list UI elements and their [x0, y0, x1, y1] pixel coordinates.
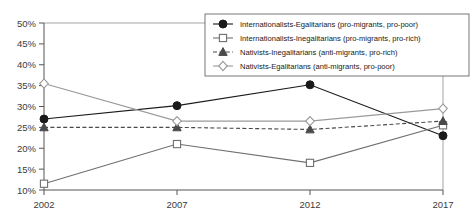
data-point: [173, 102, 181, 110]
x-axis-tick-label: 2007: [166, 199, 187, 210]
x-axis-tick-group: 2002200720122017: [33, 190, 453, 210]
data-point: [40, 115, 48, 123]
y-axis-tick-group: 50%45%40%35%30%25%20%15%10%: [17, 18, 44, 196]
legend-label: Internationalists-Inegalitarians (pro-mi…: [240, 34, 421, 43]
data-point: [306, 117, 315, 126]
chart-series: [40, 79, 448, 126]
data-point: [40, 79, 49, 88]
series-line: [44, 84, 443, 122]
y-axis-tick-label: 20%: [17, 143, 37, 154]
y-axis-tick-label: 25%: [17, 122, 37, 133]
y-axis-tick-label: 15%: [17, 164, 37, 175]
y-axis-tick-label: 45%: [17, 38, 37, 49]
y-axis-tick-label: 10%: [17, 185, 37, 196]
x-axis-tick-label: 2012: [299, 199, 320, 210]
data-point: [306, 81, 314, 89]
series-group: [40, 79, 448, 187]
legend-item[interactable]: Nativists-Inegalitarians (anti-migrants,…: [213, 48, 398, 57]
legend-item[interactable]: Internationalists-Egalitarians (pro-migr…: [213, 20, 419, 29]
line-chart: 50%45%40%35%30%25%20%15%10% 200220072012…: [0, 0, 475, 223]
data-point: [40, 180, 47, 187]
legend-item[interactable]: Nativists-Egalitarians (anti-migrants, p…: [213, 61, 395, 71]
legend-item[interactable]: Internationalists-Inegalitarians (pro-mi…: [213, 34, 421, 43]
legend-marker: [219, 20, 227, 28]
legend-label: Nativists-Egalitarians (anti-migrants, p…: [240, 62, 395, 71]
y-axis-tick-label: 40%: [17, 59, 37, 70]
chart-series: [40, 117, 447, 133]
legend-marker: [219, 34, 226, 41]
chart-canvas: 50%45%40%35%30%25%20%15%10% 200220072012…: [0, 0, 475, 223]
series-line: [44, 125, 443, 183]
chart-series: [40, 122, 446, 188]
data-point: [439, 104, 448, 113]
data-point: [173, 117, 182, 126]
y-axis-tick-label: 35%: [17, 80, 37, 91]
x-axis-tick-label: 2017: [432, 199, 453, 210]
data-point: [439, 132, 447, 140]
series-line: [44, 121, 443, 129]
data-point: [306, 159, 313, 166]
chart-series: [40, 81, 447, 140]
data-point: [439, 117, 447, 125]
y-axis-tick-label: 50%: [17, 18, 37, 29]
x-axis-tick-label: 2002: [33, 199, 54, 210]
legend-label: Nativists-Inegalitarians (anti-migrants,…: [240, 48, 398, 57]
data-point: [173, 140, 180, 147]
y-axis-tick-label: 30%: [17, 101, 37, 112]
legend-label: Internationalists-Egalitarians (pro-migr…: [240, 20, 419, 29]
chart-legend: Internationalists-Egalitarians (pro-migr…: [205, 14, 469, 76]
